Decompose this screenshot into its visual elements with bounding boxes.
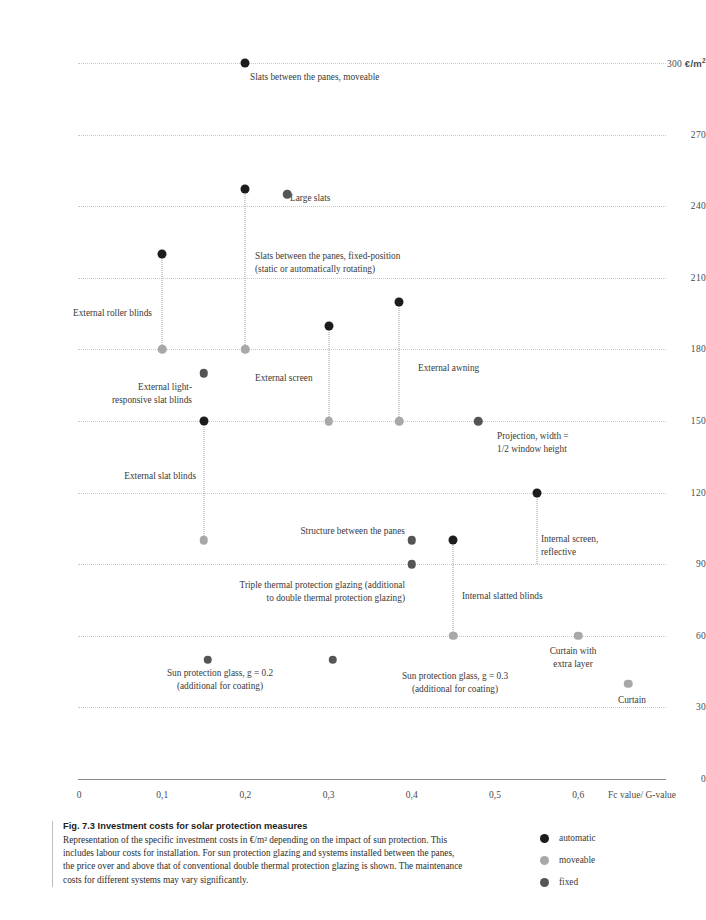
x-tick-0,4: 0,4 <box>406 790 418 800</box>
legend-item-moveable[interactable]: moveable <box>540 849 596 871</box>
data-point-external-light-responsive-slat-blinds[interactable] <box>200 369 209 378</box>
data-point-structure-between-panes[interactable] <box>408 536 417 545</box>
legend-swatch-moveable-icon <box>540 856 549 865</box>
data-point-large-slats[interactable] <box>283 190 292 199</box>
annotation-external-light-responsive-slat-blinds: External light- responsive slat blinds <box>0 381 192 407</box>
annotation-projection: Projection, width = 1/2 window height <box>497 430 569 456</box>
data-point-external-awning-bottom[interactable] <box>395 417 404 426</box>
legend: automaticmoveablefixed <box>540 827 596 893</box>
annotation-internal-screen-reflective: Internal screen, reflective <box>541 533 598 559</box>
gridline-150 <box>78 421 666 422</box>
x-tick-0: 0 <box>77 790 82 800</box>
y-tick-90: 90 <box>648 559 706 569</box>
gridline-30 <box>78 707 666 708</box>
legend-item-automatic[interactable]: automatic <box>540 827 596 849</box>
data-point-slats-between-panes-moveable[interactable] <box>241 59 250 68</box>
annotation-sun-protection-glass-g02: Sun protection glass, g = 0.2 (additiona… <box>95 667 345 693</box>
annotation-external-awning: External awning <box>418 362 479 375</box>
gridline-90 <box>78 564 666 565</box>
y-tick-210: 210 <box>648 273 706 283</box>
annotation-triple-thermal-protection-glazing: Triple thermal protection glazing (addit… <box>0 579 405 605</box>
data-point-external-screen-top[interactable] <box>324 321 333 330</box>
data-point-external-roller-blinds-top[interactable] <box>158 249 167 258</box>
gridline-210 <box>78 278 666 279</box>
data-point-sun-protection-glass-g02[interactable] <box>204 655 213 664</box>
data-point-curtain-with-extra-layer[interactable] <box>574 632 583 641</box>
x-tick-0,1: 0,1 <box>156 790 168 800</box>
data-point-external-awning-top[interactable] <box>395 297 404 306</box>
annotation-sun-protection-glass-g03: Sun protection glass, g = 0.3 (additiona… <box>330 670 580 696</box>
annotation-curtain-with-extra-layer: Curtain with extra layer <box>498 645 648 671</box>
legend-swatch-fixed-icon <box>540 878 549 887</box>
caption-body: Representation of the specific investmen… <box>63 834 463 887</box>
y-tick-300: 300 €/m2 <box>648 57 706 69</box>
data-point-external-screen-bottom[interactable] <box>324 417 333 426</box>
connector-external-screen <box>328 326 329 421</box>
x-tick-0,6: 0,6 <box>572 790 584 800</box>
data-point-curtain[interactable] <box>624 679 633 688</box>
data-point-external-slat-blinds-top[interactable] <box>199 417 208 426</box>
annotation-slats-between-panes-moveable: Slats between the panes, moveable <box>250 71 379 84</box>
y-tick-240: 240 <box>648 201 706 211</box>
annotation-external-slat-blinds: External slat blinds <box>0 470 196 483</box>
scatter-chart: 300 €/m22702402101801501209060300 00,10,… <box>0 0 706 810</box>
annotation-external-roller-blinds: External roller blinds <box>0 307 152 320</box>
y-tick-120: 120 <box>648 488 706 498</box>
figure-caption: Fig. 7.3 Investment costs for solar prot… <box>52 821 463 887</box>
legend-item-fixed[interactable]: fixed <box>540 871 596 893</box>
connector-external-slat-blinds <box>203 421 204 540</box>
x-axis-line <box>78 779 666 780</box>
data-point-internal-slatted-blinds-bottom[interactable] <box>449 632 458 641</box>
data-point-slats-between-panes-fixed[interactable] <box>241 345 250 354</box>
data-point-external-slat-blinds-bottom[interactable] <box>200 536 209 545</box>
connector-external-roller-blinds <box>162 254 163 349</box>
y-tick-30: 30 <box>648 702 706 712</box>
y-tick-150: 150 <box>648 416 706 426</box>
x-axis-title: Fc value/ G-value <box>608 790 676 800</box>
data-point-external-roller-blinds-bottom[interactable] <box>158 345 167 354</box>
annotation-external-screen: External screen <box>255 372 313 385</box>
legend-swatch-automatic-icon <box>540 834 549 843</box>
y-tick-270: 270 <box>648 130 706 140</box>
data-point-triple-thermal-protection-glazing[interactable] <box>408 560 417 569</box>
connector-internal-screen <box>536 493 537 565</box>
y-tick-60: 60 <box>648 631 706 641</box>
data-point-sun-protection-glass-g03[interactable] <box>329 655 338 664</box>
connector-external-awning <box>399 302 400 421</box>
y-tick-180: 180 <box>648 344 706 354</box>
x-tick-0,2: 0,2 <box>239 790 251 800</box>
annotation-large-slats: Large slats <box>290 192 330 205</box>
data-point-internal-slatted-blinds-top[interactable] <box>449 536 458 545</box>
x-tick-0,3: 0,3 <box>323 790 335 800</box>
data-point-projection-half-window-height[interactable] <box>474 417 483 426</box>
gridline-270 <box>78 135 666 136</box>
legend-label-automatic: automatic <box>559 833 596 843</box>
gridline-240 <box>78 206 666 207</box>
caption-title: Fig. 7.3 Investment costs for solar prot… <box>63 821 463 831</box>
data-point-large-slats-top[interactable] <box>241 185 250 194</box>
figure-footer: Fig. 7.3 Investment costs for solar prot… <box>0 815 706 920</box>
connector-internal-slatted-blinds <box>453 540 454 635</box>
annotation-internal-slatted-blinds: Internal slatted blinds <box>462 590 543 603</box>
annotation-slats-between-panes-fixed: Slats between the panes, fixed-position … <box>255 250 400 276</box>
gridline-120 <box>78 493 666 494</box>
gridline-300 <box>78 63 666 64</box>
data-point-internal-screen-reflective-top[interactable] <box>532 488 541 497</box>
x-tick-0,5: 0,5 <box>489 790 501 800</box>
connector-slats-between-panes <box>245 189 246 349</box>
legend-label-fixed: fixed <box>559 877 578 887</box>
legend-label-moveable: moveable <box>559 855 595 865</box>
annotation-curtain: Curtain <box>618 694 646 707</box>
